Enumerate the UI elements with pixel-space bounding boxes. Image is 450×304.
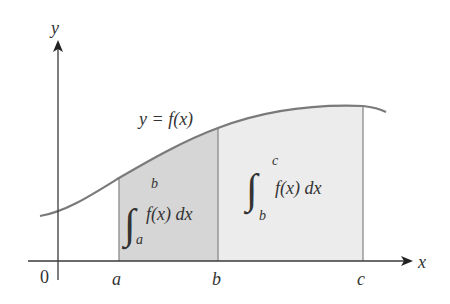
integral-diagram: y x 0 a b c y = f(x) ∫ b a f(x) dx ∫ c b…: [0, 0, 450, 304]
origin-label: 0: [40, 267, 49, 287]
integral-upper-limit: c: [272, 153, 279, 168]
integral-integrand: f(x) dx: [275, 178, 321, 199]
y-axis-label: y: [49, 18, 59, 38]
point-b-label: b: [212, 269, 221, 289]
integral-lower-limit: b: [259, 208, 266, 223]
integral-integrand: f(x) dx: [146, 204, 192, 225]
x-axis-label: x: [417, 252, 426, 272]
integral-upper-limit: b: [151, 176, 158, 191]
curve-label: y = f(x): [137, 109, 193, 130]
point-a-label: a: [112, 269, 121, 289]
integral-lower-limit: a: [136, 232, 143, 247]
point-c-label: c: [357, 269, 365, 289]
integral-sign-icon: ∫: [243, 166, 260, 215]
